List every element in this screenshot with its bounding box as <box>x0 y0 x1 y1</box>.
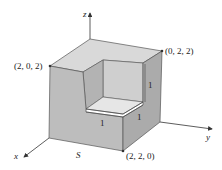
point-label-202: (2, 0, 2) <box>14 61 43 71</box>
point-label-022: (0, 2, 2) <box>165 46 194 56</box>
dim-label-height: 1 <box>148 80 153 90</box>
z-label: z <box>82 9 87 19</box>
x-label: x <box>13 151 18 161</box>
vertex-202 <box>49 65 52 68</box>
y-label: y <box>205 132 210 142</box>
point-label-220: (2, 2, 0) <box>126 151 155 161</box>
x-axis <box>24 138 49 157</box>
dim-label-width: 1 <box>100 118 105 128</box>
notch-back-wall <box>103 60 143 102</box>
vertex-220 <box>122 150 125 153</box>
vertex-022 <box>161 50 164 53</box>
surface-label: S <box>76 150 81 160</box>
cube-surface-diagram: z y x S (2, 0, 2) (0, 2, 2) (2, 2, 0) 1 … <box>0 0 222 170</box>
y-axis <box>160 122 212 129</box>
dim-label-depth: 1 <box>137 112 142 122</box>
